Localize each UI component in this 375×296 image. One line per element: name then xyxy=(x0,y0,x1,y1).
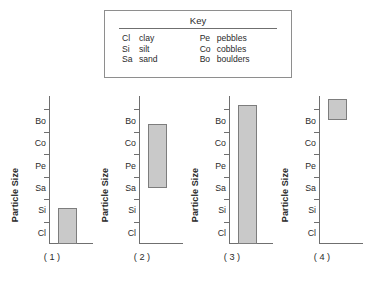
y-axis-label-co: Co xyxy=(305,139,316,148)
key-entry: Bo boulders xyxy=(200,54,250,65)
plot-area xyxy=(229,96,273,244)
key-column-left: Cl clay Si silt Sa sand xyxy=(122,33,158,65)
key-abbr: Sa xyxy=(122,54,139,65)
key-title: Key xyxy=(105,11,291,27)
plot-area xyxy=(139,96,183,244)
key-term: pebbles xyxy=(217,33,247,44)
y-axis-tick xyxy=(314,109,319,110)
key-abbr: Cl xyxy=(122,33,139,44)
y-axis-tick xyxy=(134,177,139,178)
y-axis-label-bo: Bo xyxy=(215,116,226,125)
y-axis-label-cl: Cl xyxy=(218,228,226,237)
y-axis-title: Particle Size xyxy=(280,60,290,150)
y-axis-tick-labels: ClSiSaPeCoBo xyxy=(20,92,46,240)
chart-1: Particle Size ClSiSaPeCoBo ( 1 ) xyxy=(2,92,94,292)
x-axis-baseline xyxy=(319,243,363,244)
key-term: sand xyxy=(139,54,158,65)
key-column-right: Pe pebbles Co cobbles Bo boulders xyxy=(200,33,250,65)
y-axis-tick xyxy=(134,222,139,223)
chart-3: Particle Size ClSiSaPeCoBo ( 3 ) xyxy=(182,92,274,292)
y-axis-tick xyxy=(134,154,139,155)
plot-area xyxy=(319,96,363,244)
key-term: boulders xyxy=(217,54,250,65)
y-axis-tick xyxy=(224,177,229,178)
y-axis-label-sa: Sa xyxy=(125,183,136,192)
y-axis-tick xyxy=(44,109,49,110)
y-axis-label-si: Si xyxy=(308,206,316,215)
y-axis-line xyxy=(229,96,230,244)
data-bar xyxy=(238,105,257,244)
y-axis-tick xyxy=(224,199,229,200)
chart-caption: ( 2 ) xyxy=(122,252,162,262)
y-axis-title: Particle Size xyxy=(10,60,20,150)
y-axis-tick xyxy=(134,109,139,110)
y-axis-tick xyxy=(314,222,319,223)
y-axis-label-bo: Bo xyxy=(305,116,316,125)
y-axis-label-sa: Sa xyxy=(305,183,316,192)
y-axis-tick xyxy=(314,199,319,200)
y-axis-tick xyxy=(134,199,139,200)
y-axis-tick xyxy=(44,199,49,200)
data-bar xyxy=(58,208,77,244)
key-entry: Sa sand xyxy=(122,54,158,65)
y-axis-line xyxy=(139,96,140,244)
y-axis-label-cl: Cl xyxy=(308,228,316,237)
y-axis-label-bo: Bo xyxy=(35,116,46,125)
y-axis-title: Particle Size xyxy=(100,60,110,150)
y-axis-label-co: Co xyxy=(125,139,136,148)
y-axis-tick xyxy=(314,132,319,133)
y-axis-label-si: Si xyxy=(218,206,226,215)
charts-row: Particle Size ClSiSaPeCoBo ( 1 ) Particl… xyxy=(0,92,375,292)
key-abbr: Co xyxy=(200,44,217,55)
data-bar xyxy=(328,99,347,119)
y-axis-tick xyxy=(224,109,229,110)
key-term: silt xyxy=(139,44,150,55)
key-abbr: Si xyxy=(122,44,139,55)
y-axis-label-bo: Bo xyxy=(125,116,136,125)
y-axis-label-pe: Pe xyxy=(215,161,226,170)
y-axis-tick-labels: ClSiSaPeCoBo xyxy=(200,92,226,240)
y-axis-label-pe: Pe xyxy=(305,161,316,170)
x-axis-baseline xyxy=(139,243,183,244)
y-axis-label-cl: Cl xyxy=(38,228,46,237)
y-axis-line xyxy=(49,96,50,244)
y-axis-label-cl: Cl xyxy=(128,228,136,237)
plot-area xyxy=(49,96,93,244)
y-axis-tick-labels: ClSiSaPeCoBo xyxy=(290,92,316,240)
chart-2: Particle Size ClSiSaPeCoBo ( 2 ) xyxy=(92,92,184,292)
y-axis-tick xyxy=(224,154,229,155)
key-entry: Si silt xyxy=(122,44,158,55)
key-entry: Cl clay xyxy=(122,33,158,44)
chart-caption: ( 3 ) xyxy=(212,252,252,262)
y-axis-tick xyxy=(314,154,319,155)
key-entry: Pe pebbles xyxy=(200,33,250,44)
y-axis-label-si: Si xyxy=(38,206,46,215)
y-axis-title: Particle Size xyxy=(190,60,200,150)
y-axis-label-pe: Pe xyxy=(35,161,46,170)
y-axis-label-sa: Sa xyxy=(35,183,46,192)
chart-4: Particle Size ClSiSaPeCoBo ( 4 ) xyxy=(272,92,364,292)
y-axis-label-co: Co xyxy=(215,139,226,148)
y-axis-tick-labels: ClSiSaPeCoBo xyxy=(110,92,136,240)
key-term: cobbles xyxy=(217,44,247,55)
y-axis-tick xyxy=(44,222,49,223)
y-axis-label-co: Co xyxy=(35,139,46,148)
y-axis-label-si: Si xyxy=(128,206,136,215)
chart-caption: ( 4 ) xyxy=(302,252,342,262)
key-abbr: Pe xyxy=(200,33,217,44)
y-axis-tick xyxy=(314,177,319,178)
y-axis-label-pe: Pe xyxy=(125,161,136,170)
y-axis-tick xyxy=(224,132,229,133)
y-axis-tick xyxy=(134,132,139,133)
key-abbr: Bo xyxy=(200,54,217,65)
y-axis-tick xyxy=(44,132,49,133)
y-axis-tick xyxy=(44,154,49,155)
key-entry: Co cobbles xyxy=(200,44,250,55)
y-axis-label-sa: Sa xyxy=(215,183,226,192)
key-term: clay xyxy=(139,33,154,44)
y-axis-tick xyxy=(44,177,49,178)
data-bar xyxy=(148,124,167,188)
y-axis-tick xyxy=(224,222,229,223)
chart-caption: ( 1 ) xyxy=(32,252,72,262)
y-axis-line xyxy=(319,96,320,244)
